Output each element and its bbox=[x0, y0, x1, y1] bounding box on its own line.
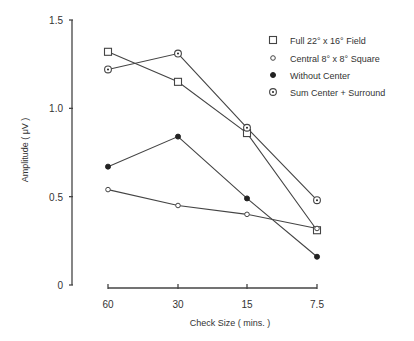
data-point-marker bbox=[105, 48, 112, 55]
legend-label: Sum Center + Surround bbox=[290, 88, 385, 98]
data-point-marker bbox=[315, 226, 320, 231]
data-point-marker bbox=[106, 164, 111, 169]
data-point-marker bbox=[315, 254, 320, 259]
data-point-marker-dot bbox=[316, 199, 318, 201]
data-point-marker bbox=[175, 78, 182, 85]
legend-label: Without Center bbox=[290, 71, 350, 81]
x-axis-label: Check Size ( mins. ) bbox=[190, 318, 271, 328]
legend-marker-dot bbox=[272, 91, 274, 93]
y-tick-label: 0 bbox=[57, 280, 63, 291]
line-chart: 00.51.01.5Amplitude ( μV )6030157.5Check… bbox=[0, 0, 414, 341]
data-point-marker-dot bbox=[246, 127, 248, 129]
data-point-marker bbox=[176, 134, 181, 139]
legend-marker bbox=[270, 37, 277, 44]
y-tick-label: 1.5 bbox=[49, 15, 63, 26]
legend-marker bbox=[271, 56, 276, 61]
data-point-marker bbox=[245, 212, 250, 217]
series-line-3 bbox=[108, 54, 317, 201]
x-tick-label: 60 bbox=[102, 299, 114, 310]
y-axis-label: Amplitude ( μV ) bbox=[20, 118, 30, 183]
data-point-marker bbox=[176, 203, 181, 208]
series-line-0 bbox=[108, 52, 317, 230]
chart: 00.51.01.5Amplitude ( μV )6030157.5Check… bbox=[0, 0, 414, 341]
series-line-1 bbox=[108, 190, 317, 229]
legend-label: Central 8° x 8° Square bbox=[290, 54, 380, 64]
data-point-marker-dot bbox=[107, 68, 109, 70]
x-tick-label: 15 bbox=[241, 299, 253, 310]
x-tick-label: 30 bbox=[172, 299, 184, 310]
legend-label: Full 22° x 16° Field bbox=[290, 36, 366, 46]
y-tick-label: 1.0 bbox=[49, 103, 63, 114]
y-tick-label: 0.5 bbox=[49, 192, 63, 203]
x-tick-label: 7.5 bbox=[310, 299, 324, 310]
data-point-marker bbox=[106, 187, 111, 192]
data-point-marker bbox=[245, 196, 250, 201]
data-point-marker-dot bbox=[177, 53, 179, 55]
legend-marker bbox=[271, 73, 276, 78]
